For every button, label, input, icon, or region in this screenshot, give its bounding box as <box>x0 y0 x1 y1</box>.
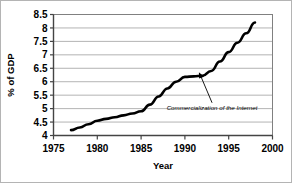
line-chart: 44.555.566.577.588.519751980198519901995… <box>0 0 293 184</box>
x-axis-tick-label: 1990 <box>174 143 197 154</box>
y-axis-tick-label: 6.5 <box>34 63 48 74</box>
y-axis-tick-label: 7.5 <box>34 36 48 47</box>
y-axis-tick-label: 4.5 <box>34 117 48 128</box>
x-axis-tick-label: 1980 <box>86 143 109 154</box>
y-axis-tick-label: 8.5 <box>34 9 48 20</box>
annotation-arrow-line <box>200 75 212 102</box>
x-axis-tick-label: 1995 <box>218 143 241 154</box>
y-axis-tick-label: 8 <box>42 23 48 34</box>
x-axis-tick-label: 1985 <box>130 143 153 154</box>
annotation-label: Commercialization of the Internet <box>167 104 258 111</box>
y-axis-tick-label: 5 <box>42 103 48 114</box>
y-axis-tick-label: 4 <box>42 130 48 141</box>
chart-figure: 44.555.566.577.588.519751980198519901995… <box>0 0 293 184</box>
x-axis-title: Year <box>153 160 173 171</box>
x-axis-tick-label: 2000 <box>261 143 284 154</box>
plot-area-border <box>54 15 273 136</box>
y-axis-title: % of GDP <box>5 53 16 97</box>
y-axis-tick-label: 6 <box>42 76 48 87</box>
y-axis-tick-label: 7 <box>42 49 48 60</box>
x-axis-tick-label: 1975 <box>42 143 65 154</box>
data-line-series-1 <box>71 23 255 131</box>
y-axis-tick-label: 5.5 <box>34 90 48 101</box>
